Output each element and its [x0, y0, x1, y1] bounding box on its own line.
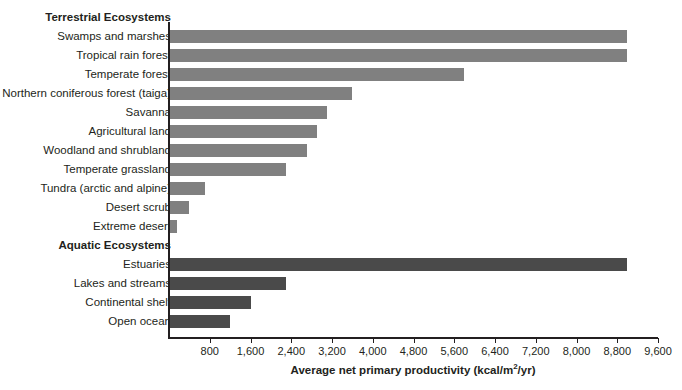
category-label: Lakes and streams [0, 274, 171, 293]
bar-track [169, 122, 669, 141]
chart-row: Agricultural land [0, 122, 682, 141]
category-label: Tropical rain forest [0, 46, 171, 65]
x-tick-label: 8,800 [603, 345, 631, 357]
x-tick-label: 5,600 [440, 345, 468, 357]
chart-row: Northern coniferous forest (taiga) [0, 84, 682, 103]
x-tick-label: 6,400 [481, 345, 509, 357]
x-tick-label: 4,000 [359, 345, 387, 357]
bar-chart: Terrestrial EcosystemsSwamps and marshes… [0, 0, 682, 390]
bar-terrestrial [169, 144, 307, 157]
category-label: Agricultural land [0, 122, 171, 141]
bar-track [169, 255, 669, 274]
chart-row: Open ocean [0, 312, 682, 331]
bar-terrestrial [169, 87, 352, 100]
chart-row: Extreme desert [0, 217, 682, 236]
category-label: Tundra (arctic and alpine) [0, 179, 171, 198]
chart-row: Desert scrub [0, 198, 682, 217]
x-tick-label: 8,000 [563, 345, 591, 357]
x-tick [291, 338, 292, 343]
x-tick [536, 338, 537, 343]
bar-track [169, 103, 669, 122]
x-tick [617, 338, 618, 343]
x-tick-label: 1,600 [237, 345, 265, 357]
bar-aquatic [169, 315, 230, 328]
group-heading-label: Terrestrial Ecosystems [0, 8, 171, 27]
group-heading-label: Aquatic Ecosystems [0, 236, 171, 255]
chart-row: Savanna [0, 103, 682, 122]
x-axis-title-main: Average net primary productivity (kcal/m [291, 364, 514, 376]
bar-track [169, 217, 669, 236]
bar-terrestrial [169, 125, 317, 138]
bar-terrestrial [169, 49, 627, 62]
bar-terrestrial [169, 68, 464, 81]
category-label: Northern coniferous forest (taiga) [0, 84, 171, 103]
chart-row: Continental shelf [0, 293, 682, 312]
category-label: Continental shelf [0, 293, 171, 312]
category-label: Swamps and marshes [0, 27, 171, 46]
category-label: Estuaries [0, 255, 171, 274]
x-tick [251, 338, 252, 343]
category-label: Open ocean [0, 312, 171, 331]
category-label: Savanna [0, 103, 171, 122]
bar-terrestrial [169, 30, 627, 43]
x-tick [658, 338, 659, 343]
group-heading-row: Terrestrial Ecosystems [0, 8, 682, 27]
bar-track [169, 160, 669, 179]
bar-track [169, 312, 669, 331]
category-label: Extreme desert [0, 217, 171, 236]
bar-track [169, 65, 669, 84]
bar-aquatic [169, 258, 627, 271]
x-tick-label: 800 [201, 345, 219, 357]
chart-row: Estuaries [0, 255, 682, 274]
x-tick [332, 338, 333, 343]
chart-row: Temperate forest [0, 65, 682, 84]
x-tick-label: 3,200 [318, 345, 346, 357]
bar-track [169, 84, 669, 103]
bar-track [169, 274, 669, 293]
x-axis-title-tail: /yr) [518, 364, 536, 376]
x-tick [414, 338, 415, 343]
bar-track [169, 141, 669, 160]
x-tick-label: 7,200 [522, 345, 550, 357]
bar-terrestrial [169, 106, 327, 119]
bar-track [169, 27, 669, 46]
x-tick-label: 9,600 [644, 345, 672, 357]
bar-terrestrial [169, 220, 177, 233]
chart-row: Tundra (arctic and alpine) [0, 179, 682, 198]
x-tick-label: 4,800 [400, 345, 428, 357]
chart-row: Woodland and shrubland [0, 141, 682, 160]
y-axis-line [168, 22, 170, 338]
chart-row: Temperate grassland [0, 160, 682, 179]
bar-track [169, 236, 669, 255]
category-label: Temperate forest [0, 65, 171, 84]
chart-row: Swamps and marshes [0, 27, 682, 46]
category-label: Woodland and shrubland [0, 141, 171, 160]
bar-track [169, 179, 669, 198]
bar-terrestrial [169, 182, 205, 195]
category-label: Desert scrub [0, 198, 171, 217]
bar-track [169, 293, 669, 312]
x-tick [373, 338, 374, 343]
bar-aquatic [169, 296, 251, 309]
bar-terrestrial [169, 201, 189, 214]
bar-terrestrial [169, 163, 286, 176]
bar-track [169, 8, 669, 27]
x-axis-title: Average net primary productivity (kcal/m… [168, 362, 658, 376]
chart-rows: Terrestrial EcosystemsSwamps and marshes… [0, 8, 682, 331]
category-label: Temperate grassland [0, 160, 171, 179]
group-heading-row: Aquatic Ecosystems [0, 236, 682, 255]
chart-row: Tropical rain forest [0, 46, 682, 65]
x-tick [577, 338, 578, 343]
bar-track [169, 46, 669, 65]
x-tick-label: 2,400 [277, 345, 305, 357]
bar-track [169, 198, 669, 217]
x-tick [454, 338, 455, 343]
x-tick [210, 338, 211, 343]
x-tick [495, 338, 496, 343]
chart-row: Lakes and streams [0, 274, 682, 293]
bar-aquatic [169, 277, 286, 290]
